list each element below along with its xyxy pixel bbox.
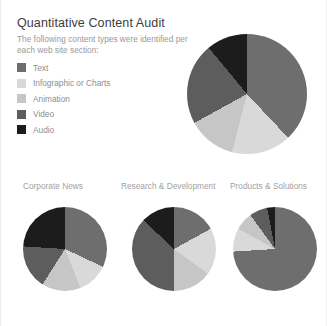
legend-swatch-icon (17, 94, 26, 103)
legend-item: Infographic or Charts (17, 76, 110, 92)
pie-panel-research-development: Research & Development (121, 181, 216, 291)
legend-swatch-icon (17, 110, 26, 119)
legend-item-label: Video (33, 109, 54, 119)
legend-item-label: Audio (33, 125, 54, 135)
audit-card: Quantitative Content Audit The following… (0, 0, 327, 326)
legend-item: Text (17, 60, 110, 76)
page-title: Quantitative Content Audit (17, 16, 165, 30)
pie-chart-products-solutions (233, 207, 317, 291)
page-subtitle: The following content types were identif… (17, 34, 192, 56)
legend: TextInfographic or ChartsAnimationVideoA… (17, 60, 110, 138)
legend-swatch-icon (17, 79, 26, 88)
pie-panel-corporate-news: Corporate News (23, 181, 107, 291)
pie-chart-overall (187, 34, 307, 154)
pie-title-research-development: Research & Development (121, 181, 216, 193)
pie-chart-research-development (132, 207, 216, 291)
legend-swatch-icon (17, 63, 26, 72)
pie-chart-corporate-news (23, 207, 107, 291)
legend-item-label: Text (33, 63, 48, 73)
pie-panel-products-solutions: Products & Solutions (230, 181, 314, 291)
legend-item: Video (17, 107, 110, 123)
pie-title-products-solutions: Products & Solutions (230, 181, 314, 193)
legend-item-label: Infographic or Charts (33, 78, 110, 88)
legend-item: Audio (17, 122, 110, 138)
legend-item: Animation (17, 91, 110, 107)
legend-item-label: Animation (33, 94, 70, 104)
pie-title-corporate-news: Corporate News (23, 181, 107, 193)
legend-swatch-icon (17, 125, 26, 134)
